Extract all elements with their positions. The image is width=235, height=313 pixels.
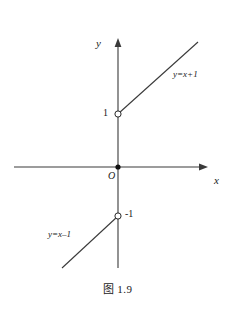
upper-line-equation-label: y=x+1 [173,70,198,79]
open-circle-marker-negative [115,213,121,219]
lower-line-equation-label: y=x–1 [48,230,71,239]
y-axis-label: y [96,38,101,49]
origin-label: O [108,171,115,181]
x-axis-arrowhead [199,164,208,171]
y-intercept-negative-label: -1 [125,209,133,219]
figure-container: y x O 1 -1 y=x+1 y=x–1 图 1.9 [0,0,235,313]
y-intercept-positive-label: 1 [103,108,108,118]
origin-dot-marker [115,164,120,169]
line-segment-lower [62,217,117,268]
open-circle-marker-positive [115,111,121,117]
x-axis-label: x [214,175,219,186]
y-axis-arrowhead [115,38,122,47]
figure-caption: 图 1.9 [0,280,235,296]
coordinate-plot [0,0,235,313]
